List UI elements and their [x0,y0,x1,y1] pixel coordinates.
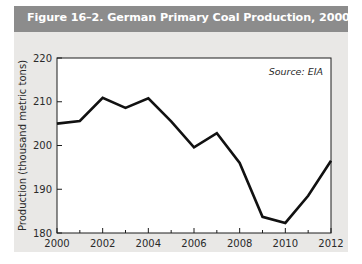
figure-title: Figure 16–2. German Primary Coal Product… [27,11,343,24]
y-tick-label: 180 [33,228,52,239]
x-tick-label: 2006 [181,238,206,249]
figure-card: Figure 16–2. German Primary Coal Product… [14,6,348,252]
x-tick-label: 2010 [273,238,298,249]
chart-plot-area: 1801902002102202000200220042006200820102… [14,32,348,252]
x-tick-label: 2004 [136,238,161,249]
x-tick-label: 2000 [44,238,69,249]
source-note: Source: EIA [269,66,323,77]
line-chart: 1801902002102202000200220042006200820102… [14,32,348,252]
x-tick-label: 2002 [90,238,115,249]
y-tick-label: 210 [33,96,52,107]
y-tick-label: 190 [33,184,52,195]
y-tick-label: 220 [33,53,52,64]
x-tick-label: 2008 [227,238,252,249]
figure-title-bar: Figure 16–2. German Primary Coal Product… [14,6,348,32]
y-tick-label: 200 [33,140,52,151]
y-axis-title: Production (thousand metric tons) [17,60,28,231]
x-tick-label: 2012 [318,238,343,249]
